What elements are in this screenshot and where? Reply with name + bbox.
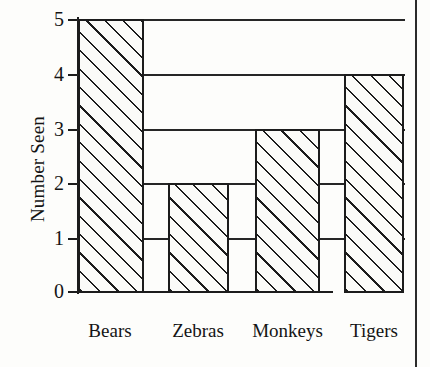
bar-monkeys[interactable] [255,129,320,293]
y-tick-label-3: 3 [54,119,64,139]
x-tick-label-tigers: Tigers [331,321,417,340]
y-tick-1 [68,238,77,240]
bar-zebras[interactable] [168,183,229,293]
x-tick-label-zebras: Zebras [153,321,243,340]
y-tick-label-2: 2 [54,173,64,193]
bar-tigers[interactable] [344,74,404,293]
chart-page: Number Seen 5 4 3 2 1 0 Bears [0,0,430,367]
y-tick-5 [68,19,77,21]
x-tick-label-bears: Bears [65,321,155,340]
plot-area: 5 4 3 2 1 0 Bears Zebras Monkeys Tigers [77,19,405,293]
y-axis-title: Number Seen [27,69,49,269]
y-tick-label-5: 5 [54,9,64,29]
y-tick-2 [68,183,77,185]
y-tick-label-4: 4 [54,64,64,84]
y-tick-label-1: 1 [54,228,64,248]
y-tick-0 [68,291,77,293]
page-border-line [415,0,417,367]
y-tick-3 [68,129,77,131]
y-tick-label-0: 0 [54,281,64,301]
bar-bears[interactable] [78,19,144,293]
x-tick-label-monkeys: Monkeys [240,321,335,340]
y-tick-4 [68,74,77,76]
